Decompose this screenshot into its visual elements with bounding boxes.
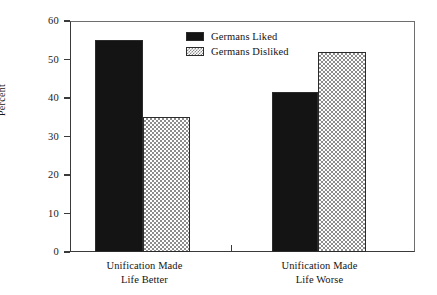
legend-label-germans-disliked: Germans Disliked xyxy=(211,46,289,57)
y-tick-label-50: 50 xyxy=(48,52,59,67)
y-tick-label-40: 40 xyxy=(48,90,59,105)
legend-item-germans-liked: Germans Liked xyxy=(186,30,289,43)
legend-swatch-solid-icon xyxy=(186,32,204,41)
x-axis-group-separator-tick xyxy=(231,245,232,252)
y-tick-label-20: 20 xyxy=(48,167,59,182)
legend-label-germans-liked: Germans Liked xyxy=(211,31,277,42)
chart-legend: Germans Liked Germans Disliked xyxy=(186,30,289,60)
x-axis-label-life-worse-line1: Unification Made xyxy=(257,259,382,273)
x-axis-label-life-better-line2: Life Better xyxy=(82,273,207,287)
x-axis-label-life-better-line1: Unification Made xyxy=(82,259,207,273)
legend-item-germans-disliked: Germans Disliked xyxy=(186,45,289,58)
x-axis-label-life-worse-line2: Life Worse xyxy=(257,273,382,287)
y-tick-label-0: 0 xyxy=(54,244,59,259)
bar-disliked-better xyxy=(143,117,190,252)
y-tick-label-30: 30 xyxy=(48,129,59,144)
bar-liked-worse xyxy=(272,92,318,252)
x-axis-label-life-better: Unification Made Life Better xyxy=(82,259,207,286)
y-tick-label-10: 10 xyxy=(48,206,59,221)
y-tick-label-60: 60 xyxy=(48,13,59,28)
legend-swatch-hatched-icon xyxy=(186,47,204,56)
bar-disliked-worse xyxy=(318,52,366,252)
x-axis-label-life-worse: Unification Made Life Worse xyxy=(257,259,382,286)
bar-chart: 60 50 40 30 20 10 0 Percent Unifi xyxy=(0,0,437,295)
y-axis-title: Percent xyxy=(0,84,7,116)
bar-liked-better xyxy=(95,40,143,252)
